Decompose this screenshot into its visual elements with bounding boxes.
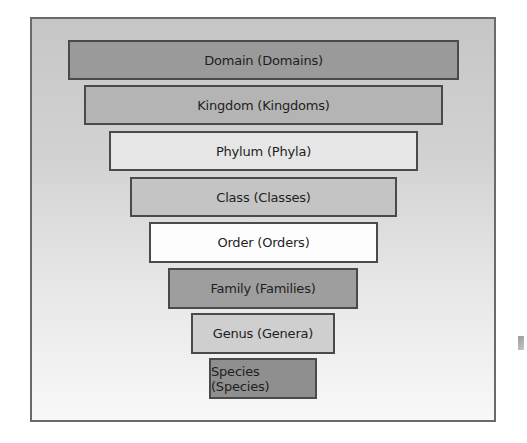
rank-family: Family (Families) — [168, 268, 358, 309]
rank-label: Domain (Domains) — [204, 53, 323, 68]
rank-phylum: Phylum (Phyla) — [109, 131, 418, 171]
rank-domain: Domain (Domains) — [68, 40, 459, 80]
rank-label: Family (Families) — [210, 281, 315, 296]
rank-label: Class (Classes) — [216, 190, 310, 205]
rank-order: Order (Orders) — [149, 222, 378, 263]
rank-kingdom: Kingdom (Kingdoms) — [84, 85, 443, 125]
rank-label: Order (Orders) — [217, 235, 309, 250]
rank-class: Class (Classes) — [130, 177, 397, 217]
scan-artifact-mark — [518, 336, 524, 350]
rank-label: Genus (Genera) — [213, 326, 313, 341]
rank-label: Phylum (Phyla) — [216, 144, 311, 159]
rank-label: Kingdom (Kingdoms) — [197, 98, 329, 113]
rank-genus: Genus (Genera) — [191, 313, 335, 354]
rank-species: Species (Species) — [209, 358, 317, 399]
rank-label: Species (Species) — [211, 364, 315, 394]
